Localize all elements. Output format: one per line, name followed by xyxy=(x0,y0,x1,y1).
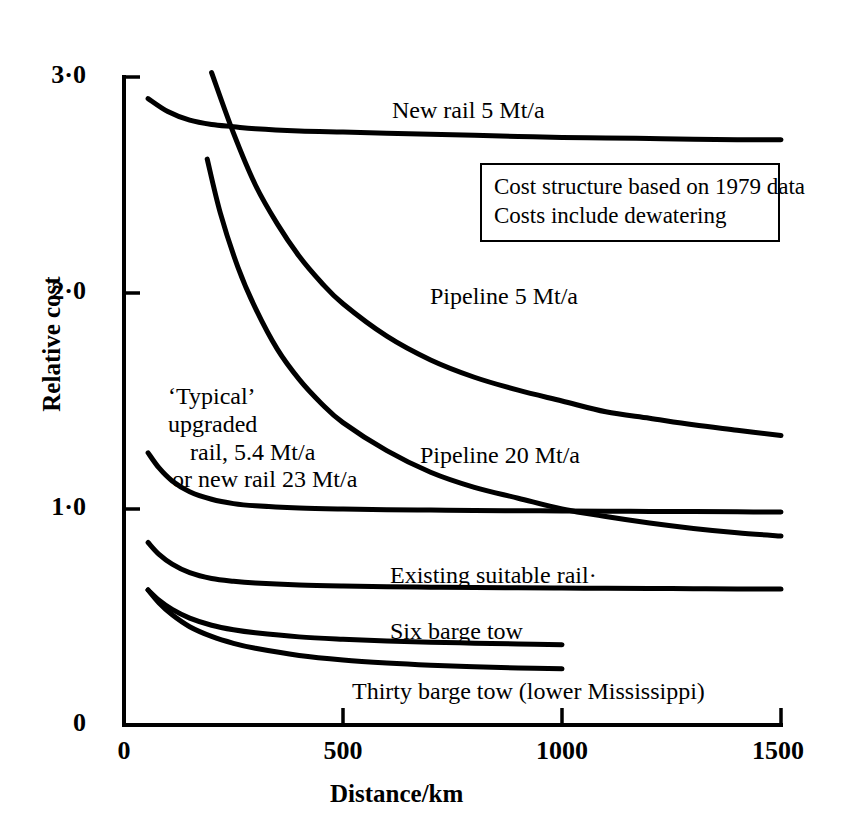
annotation-box: Cost structure based on 1979 data Costs … xyxy=(480,163,780,242)
series-label-typical-upgraded-rail: ‘Typical’ upgraded rail, 5.4 Mt/a or new… xyxy=(168,383,418,494)
annotation-line-2: Costs include dewatering xyxy=(494,201,766,230)
y-tick-label-1: 1·0 xyxy=(8,492,86,522)
x-tick-label-500: 500 xyxy=(303,736,383,766)
series-label-six-barge-tow: Six barge tow xyxy=(390,618,523,646)
x-tick-label-0: 0 xyxy=(84,736,164,766)
typical-label-line-2: upgraded xyxy=(168,411,418,439)
typical-label-line-1: ‘Typical’ xyxy=(168,383,418,411)
chart-figure: 3·0 2·0 1·0 0 0 500 1000 1500 Relative c… xyxy=(0,0,841,840)
series-label-pipeline-5: Pipeline 5 Mt/a xyxy=(430,283,578,311)
series-label-new-rail: New rail 5 Mt/a xyxy=(392,97,545,125)
x-tick-label-1500: 1500 xyxy=(733,736,823,766)
data-series-curve xyxy=(212,73,781,436)
y-axis-title: Relative cost xyxy=(38,244,66,444)
x-tick-label-1000: 1000 xyxy=(517,736,607,766)
chart-canvas xyxy=(0,0,841,840)
typical-label-line-4: or new rail 23 Mt/a xyxy=(168,466,418,494)
y-tick-label-0: 0 xyxy=(8,708,86,738)
series-label-pipeline-20: Pipeline 20 Mt/a xyxy=(420,442,580,470)
annotation-line-1: Cost structure based on 1979 data xyxy=(494,172,766,201)
series-label-thirty-barge-tow: Thirty barge tow (lower Mississippi) xyxy=(352,678,705,706)
x-axis-title: Distance/km xyxy=(330,780,463,808)
typical-label-line-3: rail, 5.4 Mt/a xyxy=(168,439,418,467)
y-tick-label-3: 3·0 xyxy=(8,60,86,90)
series-label-existing-suitable-rail: Existing suitable rail· xyxy=(390,562,597,590)
